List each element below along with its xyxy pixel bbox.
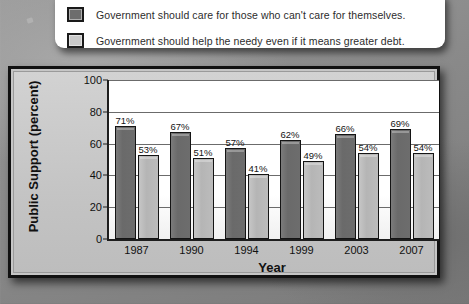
- bar-value-label: 62%: [280, 130, 299, 140]
- x-axis-tick-label: 2003: [344, 244, 368, 256]
- bar-group-1987: 71%53%1987: [109, 80, 164, 239]
- bar-slot: 54%: [358, 80, 379, 239]
- y-axis-tick-mark: [103, 207, 108, 208]
- chart-frame: Public Support (percent) 02040608010071%…: [8, 66, 440, 278]
- bar-value-label: 71%: [115, 116, 134, 126]
- y-axis-tick-mark: [103, 239, 108, 240]
- bar-group-1990: 67%51%1990: [164, 80, 219, 239]
- legend-item-0: Government should care for those who can…: [67, 3, 445, 26]
- bar-value-label: 41%: [248, 164, 267, 174]
- y-axis-tick-mark: [103, 111, 108, 112]
- y-axis-tick-mark: [103, 143, 108, 144]
- bar-slot: 66%: [335, 80, 356, 239]
- bar-series-1-1987[interactable]: 53%: [138, 155, 159, 239]
- bar-slot: 51%: [193, 80, 214, 239]
- bar-slot: 67%: [170, 80, 191, 239]
- bar-value-label: 53%: [138, 145, 157, 155]
- bar-series-0-2003[interactable]: 66%: [335, 134, 356, 239]
- bar-value-label: 54%: [413, 143, 432, 153]
- bar-series-1-2003[interactable]: 54%: [358, 153, 379, 239]
- bar-slot: 49%: [303, 80, 324, 239]
- bar-value-label: 57%: [225, 138, 244, 148]
- bar-group-1999: 62%49%1999: [274, 80, 329, 239]
- y-axis-title-text: Public Support (percent): [27, 80, 42, 232]
- x-axis-tick-label: 1994: [234, 244, 258, 256]
- bar-series-0-1994[interactable]: 57%: [225, 148, 246, 239]
- x-axis-tick-label: 1987: [124, 244, 148, 256]
- y-axis-tick-label: 100: [84, 74, 102, 86]
- bar-series-1-1990[interactable]: 51%: [193, 158, 214, 239]
- plot-area: 02040608010071%53%198767%51%199057%41%19…: [107, 80, 439, 241]
- bar-slot: 53%: [138, 80, 159, 239]
- y-axis-tick-label: 80: [90, 106, 102, 118]
- bar-slot: 57%: [225, 80, 246, 239]
- bar-value-label: 66%: [335, 124, 354, 134]
- y-axis-title: Public Support (percent): [16, 72, 52, 240]
- y-axis-tick-label: 20: [90, 201, 102, 213]
- bar-value-label: 49%: [303, 151, 322, 161]
- bar-value-label: 51%: [193, 148, 212, 158]
- y-axis-tick-label: 60: [90, 138, 102, 150]
- bar-group-2007: 69%54%2007: [384, 80, 439, 239]
- bar-value-label: 67%: [170, 122, 189, 132]
- x-axis-tick-label: 2007: [399, 244, 423, 256]
- bar-slot: 69%: [390, 80, 411, 239]
- bar-value-label: 69%: [390, 119, 409, 129]
- legend-swatch-icon-series-0: [67, 7, 84, 22]
- bar-series-0-1987[interactable]: 71%: [115, 126, 136, 239]
- chart-panel: Public Support (percent) 02040608010071%…: [13, 71, 435, 273]
- bar-value-label: 54%: [358, 143, 377, 153]
- bar-series-1-2007[interactable]: 54%: [413, 153, 434, 239]
- bar-series-1-1994[interactable]: 41%: [248, 174, 269, 239]
- bar-slot: 54%: [413, 80, 434, 239]
- y-axis-tick-mark: [103, 80, 108, 81]
- y-axis-tick-label: 40: [90, 169, 102, 181]
- x-axis-tick-label: 1990: [179, 244, 203, 256]
- bar-group-2003: 66%54%2003: [329, 80, 384, 239]
- bar-slot: 71%: [115, 80, 136, 239]
- bar-slot: 41%: [248, 80, 269, 239]
- bar-series-0-1999[interactable]: 62%: [280, 140, 301, 239]
- y-axis-tick-label: 0: [96, 233, 102, 245]
- bar-slot: 62%: [280, 80, 301, 239]
- legend-item-1: Government should help the needy even if…: [67, 29, 445, 48]
- legend-label-1: Government should help the needy even if…: [96, 35, 405, 47]
- chart-legend: Government should care for those who can…: [55, 0, 445, 48]
- legend-label-0: Government should care for those who can…: [96, 9, 405, 21]
- x-axis-title: Year: [107, 260, 437, 275]
- bar-series-1-1999[interactable]: 49%: [303, 161, 324, 239]
- legend-swatch-icon-series-1: [67, 33, 84, 48]
- bar-group-1994: 57%41%1994: [219, 80, 274, 239]
- bar-series-0-1990[interactable]: 67%: [170, 132, 191, 239]
- x-axis-tick-label: 1999: [289, 244, 313, 256]
- y-axis-tick-mark: [103, 175, 108, 176]
- bar-series-0-2007[interactable]: 69%: [390, 129, 411, 239]
